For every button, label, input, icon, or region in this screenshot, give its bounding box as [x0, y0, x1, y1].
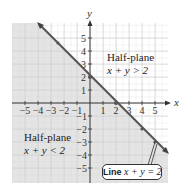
svg-text:4: 4 — [140, 105, 145, 116]
svg-text:5: 5 — [81, 33, 86, 44]
svg-text:−5: −5 — [76, 163, 87, 174]
x-axis-label: x — [173, 96, 179, 108]
svg-text:1: 1 — [101, 105, 106, 116]
svg-text:−5: −5 — [20, 105, 31, 116]
svg-text:2: 2 — [114, 105, 119, 116]
svg-text:−2: −2 — [59, 105, 70, 116]
lower-region-inequality: x + y < 2 — [23, 144, 66, 156]
callout-equation: x + y = 2 — [124, 166, 161, 177]
svg-text:5: 5 — [153, 105, 158, 116]
upper-region-inequality: x + y > 2 — [106, 64, 149, 76]
line-callout-label: Line x + y = 2 — [102, 164, 162, 180]
svg-text:−3: −3 — [76, 137, 87, 148]
svg-text:4: 4 — [81, 46, 86, 57]
svg-text:−4: −4 — [76, 150, 87, 161]
svg-text:−1: −1 — [76, 111, 87, 122]
callout-word: Line — [103, 167, 122, 177]
svg-text:−4: −4 — [33, 105, 44, 116]
lower-region-title: Half-plane — [24, 131, 71, 143]
svg-text:−2: −2 — [76, 124, 87, 135]
coordinate-plane: −5 −4 −3 −2 −1 1 2 3 4 5 5 4 3 2 1 −1 −2… — [0, 0, 188, 192]
svg-text:2: 2 — [81, 72, 86, 83]
y-axis-label: y — [86, 7, 92, 19]
svg-text:1: 1 — [81, 85, 86, 96]
svg-text:−3: −3 — [46, 105, 57, 116]
upper-region-title: Half-plane — [107, 51, 154, 63]
